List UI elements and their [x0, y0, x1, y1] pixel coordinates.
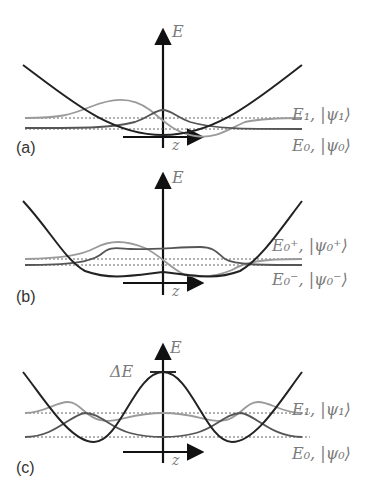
- z-axis-label-c: z: [172, 452, 179, 468]
- panel-label-c: (c): [16, 459, 35, 477]
- e-axis-label-c: E: [170, 338, 182, 357]
- e-axis-label-b: E: [172, 168, 184, 187]
- panel-a: [23, 32, 302, 148]
- level-label-e1-c: E₁, |ψ₁⟩: [292, 400, 351, 419]
- panel-label-a: (a): [16, 139, 36, 157]
- panel-b: [23, 176, 302, 295]
- level-label-e0-minus: E₀⁻, |ψ₀⁻⟩: [272, 270, 348, 289]
- level-label-e1: E₁, |ψ₁⟩: [292, 105, 351, 124]
- z-axis-label-b: z: [172, 283, 179, 299]
- z-axis-label-a: z: [172, 137, 179, 153]
- e-axis-label-a: E: [172, 22, 184, 41]
- level-label-e0-c: E₀, |ψ₀⟩: [292, 444, 351, 463]
- panel-label-b: (b): [16, 288, 36, 306]
- level-label-e0: E₀, |ψ₀⟩: [292, 136, 351, 155]
- barrier-height-label: ΔE: [110, 362, 133, 381]
- panel-c: [23, 347, 310, 463]
- level-label-e0-plus: E₀⁺, |ψ₀⁺⟩: [272, 236, 348, 255]
